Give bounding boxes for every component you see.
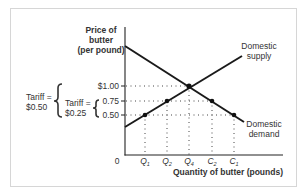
tariff-0.50-label-line2: $0.50 — [26, 102, 48, 112]
x-tick-label-q4: Q4 — [184, 156, 194, 167]
x-tick-label-q2: Q2 — [162, 156, 172, 167]
tariff-0.25-label-line1: Tariff = — [65, 98, 91, 108]
y-ticks — [121, 86, 125, 115]
point-supply-0.50 — [143, 113, 148, 118]
x-tick-label-c2: C2 — [207, 156, 216, 167]
point-supply-0.75 — [165, 99, 170, 104]
supply-label-line1: Domestic — [241, 41, 277, 51]
demand-label-line1: Domestic — [246, 119, 282, 129]
y-tick-label-0.50: 0.50 — [102, 110, 119, 120]
supply-curve — [125, 56, 242, 127]
y-tick-label-0.75: 0.75 — [102, 96, 119, 106]
x-axis-title: Quantity of butter (pounds) — [173, 167, 283, 177]
y-axis-title-line3: (per pound) — [77, 45, 124, 55]
x-tick-label-q1: Q1 — [140, 156, 150, 167]
origin-label: 0 — [115, 156, 120, 166]
demand-curve — [125, 46, 244, 122]
tariff-0.50-label-line1: Tariff = — [26, 92, 52, 102]
supply-label-line2: supply — [247, 51, 272, 61]
y-tick-label-1.00: $1.00 — [98, 81, 120, 91]
point-demand-0.75 — [210, 99, 215, 104]
tariff-0.25-label-line2: $0.25 — [65, 108, 87, 118]
brace-tariff-0.25 — [93, 100, 99, 117]
point-demand-0.50 — [232, 113, 237, 118]
point-equilibrium — [186, 83, 191, 88]
y-axis-title-line1: Price of — [85, 25, 116, 35]
brace-tariff-0.50 — [54, 84, 62, 117]
demand-label-line2: demand — [249, 129, 280, 139]
chart-svg: Price of butter (per pound) $1.00 0.75 0… — [0, 0, 304, 194]
reference-lines — [126, 86, 234, 155]
y-axis-title-line2: butter — [89, 35, 114, 45]
x-tick-label-c1: C1 — [229, 156, 238, 167]
